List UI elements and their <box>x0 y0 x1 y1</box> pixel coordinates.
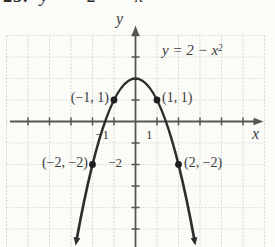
curve-equation-label: y = 2 − x2 <box>162 42 223 59</box>
point-label-2-neg2: (2, −2) <box>184 155 222 171</box>
exercise-number: 25. <box>3 0 29 6</box>
point-label-neg2-neg2: (−2, −2) <box>42 155 88 171</box>
figure-container: 25. y = 2 − x2 y = 2 − x2 (−1, 1) (1, 1)… <box>0 0 275 247</box>
x-tick-label-neg1: −1 <box>95 128 109 143</box>
exercise-equation: y = 2 − x <box>40 0 145 6</box>
graph-svg <box>0 0 275 247</box>
curve-equation-base: y = 2 − x <box>162 42 218 58</box>
y-axis-label: y <box>116 10 123 28</box>
exercise-heading: 25. y = 2 − x2 <box>3 0 153 7</box>
y-tick-label-neg2: −2 <box>108 156 122 171</box>
point-label-1-1: (1, 1) <box>162 90 192 106</box>
x-axis-label: x <box>252 125 259 143</box>
point-label-neg1-1: (−1, 1) <box>71 90 109 106</box>
x-tick-label-1: 1 <box>146 128 153 143</box>
curve-equation-exponent: 2 <box>218 43 223 53</box>
